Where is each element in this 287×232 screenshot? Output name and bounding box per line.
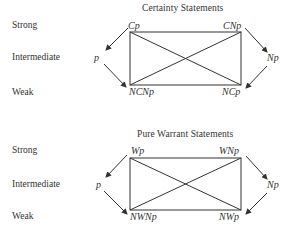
node-bottom-right: NWp [219, 211, 239, 222]
node-right: Np [267, 179, 279, 190]
node-right: Np [267, 52, 279, 63]
arrow-p-to-nwnp [104, 191, 127, 214]
arrow-p-to-ncnp [104, 64, 126, 87]
certainty-statements-diagram: Certainty Statements Strong Intermediate… [0, 0, 287, 116]
node-left: p [96, 179, 101, 190]
node-top-left: Wp [131, 145, 144, 156]
node-bottom-left: NWNp [130, 211, 157, 222]
node-top-right: WNp [219, 145, 239, 156]
node-bottom-right: NCp [222, 86, 240, 97]
node-bottom-left: NCNp [129, 86, 154, 97]
arrow-cp-to-p [106, 28, 128, 50]
arrow-wp-to-p [106, 155, 127, 177]
square-of-opposition-lines [0, 0, 287, 116]
pure-warrant-statements-diagram: Pure Warrant Statements Strong Intermedi… [0, 116, 287, 232]
node-left: p [94, 52, 99, 63]
arrow-cnp-to-np [245, 28, 267, 52]
arrow-wnp-to-np [246, 156, 267, 179]
arrow-np-to-nwp [246, 193, 267, 214]
node-top-right: CNp [223, 20, 241, 31]
arrow-np-to-ncp [246, 66, 267, 88]
node-top-left: Cp [128, 20, 140, 31]
